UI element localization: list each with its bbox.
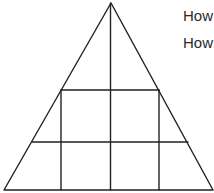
- question-text-1: How: [183, 8, 213, 23]
- outer-triangle: [4, 3, 213, 190]
- question-text-2: How: [183, 35, 213, 50]
- triangle-puzzle-figure: [0, 0, 214, 193]
